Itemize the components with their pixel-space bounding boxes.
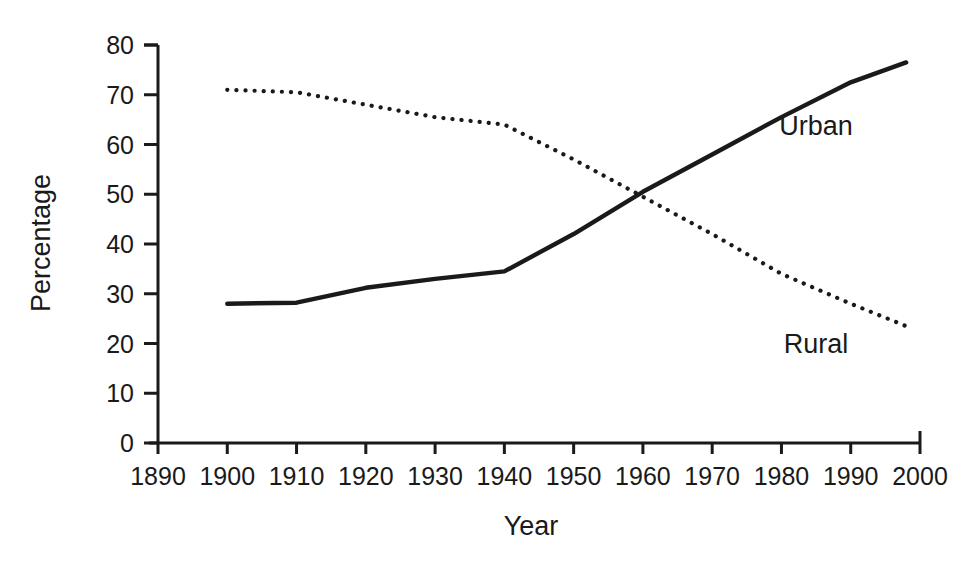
y-tick-label: 40 [106, 230, 134, 258]
y-tick-label: 0 [120, 429, 134, 457]
x-tick-label: 1950 [546, 462, 602, 490]
x-tick-label: 1990 [823, 462, 879, 490]
y-tick-label: 10 [106, 379, 134, 407]
y-tick-label: 70 [106, 81, 134, 109]
x-axis-ticks: 1890190019101920193019401950196019701980… [130, 443, 948, 490]
y-tick-label: 60 [106, 131, 134, 159]
x-tick-label: 1910 [269, 462, 325, 490]
x-tick-label: 1960 [615, 462, 671, 490]
series-line-urban [227, 62, 906, 303]
y-axis-title: Percentage [26, 174, 56, 312]
x-tick-label: 2000 [892, 462, 948, 490]
y-tick-label: 80 [106, 31, 134, 59]
x-tick-label: 1930 [407, 462, 463, 490]
series-label-urban: Urban [779, 111, 853, 141]
chart-annotations: UrbanRural [779, 111, 853, 360]
x-axis-title: Year [504, 511, 559, 541]
chart-series [227, 62, 906, 326]
x-tick-label: 1940 [477, 462, 533, 490]
series-label-rural: Rural [784, 329, 849, 359]
y-tick-label: 50 [106, 180, 134, 208]
x-tick-label: 1890 [130, 462, 186, 490]
x-tick-label: 1900 [199, 462, 255, 490]
y-axis-ticks: 01020304050607080 [106, 31, 158, 457]
chart-container: 1890190019101920193019401950196019701980… [0, 0, 972, 575]
y-tick-label: 30 [106, 280, 134, 308]
y-tick-label: 20 [106, 330, 134, 358]
x-tick-label: 1970 [684, 462, 740, 490]
x-tick-label: 1980 [754, 462, 810, 490]
line-chart: 1890190019101920193019401950196019701980… [0, 0, 972, 575]
x-tick-label: 1920 [338, 462, 394, 490]
